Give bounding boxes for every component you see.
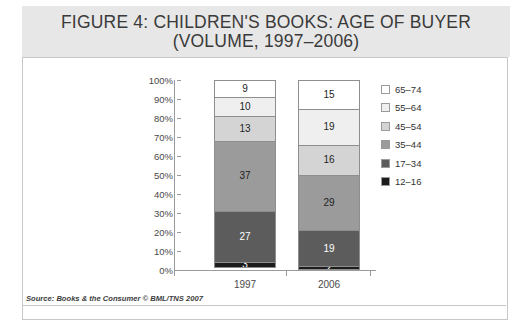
bar-segment[interactable]: 16 xyxy=(298,145,360,175)
figure-container: FIGURE 4: CHILDREN'S BOOKS: AGE OF BUYER… xyxy=(22,6,510,322)
legend-item[interactable]: 17–34 xyxy=(381,154,491,173)
legend-label: 17–34 xyxy=(395,158,421,169)
bar-segment-label: 2 xyxy=(326,266,332,270)
bar-segment-label: 13 xyxy=(239,124,250,134)
bar-segment-label: 19 xyxy=(323,122,334,132)
legend-item[interactable]: 65–74 xyxy=(381,80,491,99)
bar-segment-label: 15 xyxy=(323,90,334,100)
y-axis-tick: 20% xyxy=(121,226,181,238)
legend-swatch-icon xyxy=(381,85,390,94)
x-axis-tick-mark xyxy=(174,271,175,276)
y-axis-tick-label: 60% xyxy=(154,151,177,162)
source-note: Source: Books & the Consumer © BML/TNS 2… xyxy=(22,294,510,303)
y-axis-tick: 100% xyxy=(121,74,181,86)
y-axis-tick-label: 100% xyxy=(149,75,177,86)
figure-title-line-1: FIGURE 4: CHILDREN'S BOOKS: AGE OF BUYER xyxy=(61,13,471,32)
legend-item[interactable]: 55–64 xyxy=(381,99,491,118)
figure-title-banner: FIGURE 4: CHILDREN'S BOOKS: AGE OF BUYER… xyxy=(22,6,510,57)
bar-segment[interactable]: 9 xyxy=(214,80,276,97)
y-axis-tick-label: 20% xyxy=(154,227,177,238)
y-axis-tick: 10% xyxy=(121,245,181,257)
legend-label: 12–16 xyxy=(395,176,421,187)
x-axis-line xyxy=(174,270,376,271)
bar-segment[interactable]: 19 xyxy=(298,109,360,145)
y-axis-tick-mark xyxy=(177,156,181,157)
bar-segment-label: 19 xyxy=(323,244,334,254)
y-axis-tick-mark xyxy=(177,270,181,271)
legend-swatch-icon xyxy=(381,140,390,149)
bar-segment[interactable]: 2 xyxy=(298,266,360,270)
legend-label: 35–44 xyxy=(395,139,421,150)
y-axis-tick-mark xyxy=(177,251,181,252)
y-axis-tick: 30% xyxy=(121,207,181,219)
x-axis-tick-mark xyxy=(286,271,287,276)
x-axis-label: 1997 xyxy=(205,279,285,290)
y-axis-tick: 90% xyxy=(121,93,181,105)
bar-segment-label: 9 xyxy=(242,84,248,94)
bar-segment[interactable]: 29 xyxy=(298,175,360,230)
x-axis-label: 2006 xyxy=(289,279,369,290)
y-axis-tick: 40% xyxy=(121,188,181,200)
bar-segment-label: 27 xyxy=(239,232,250,242)
y-axis-tick: 70% xyxy=(121,131,181,143)
y-axis-tick-mark xyxy=(177,118,181,119)
y-axis-tick-label: 80% xyxy=(154,113,177,124)
y-axis-tick: 80% xyxy=(121,112,181,124)
y-axis-tick-label: 90% xyxy=(154,94,177,105)
legend-item[interactable]: 35–44 xyxy=(381,136,491,155)
y-axis-tick-mark xyxy=(177,80,181,81)
y-axis-tick-label: 70% xyxy=(154,132,177,143)
x-axis-tick-mark xyxy=(370,271,371,276)
y-axis-tick-label: 40% xyxy=(154,189,177,200)
bar-segment[interactable]: 37 xyxy=(214,141,276,211)
stacked-bar[interactable]: 9101337273 xyxy=(214,80,276,270)
legend-swatch-icon xyxy=(381,122,390,131)
chart-frame: 100%90%80%70%60%50%40%30%20%10%0% 199720… xyxy=(22,57,508,320)
y-axis-tick: 60% xyxy=(121,150,181,162)
source-note-area: Source: Books & the Consumer © BML/TNS 2… xyxy=(22,294,510,306)
bar-segment-label: 37 xyxy=(239,171,250,181)
y-axis-tick-mark xyxy=(177,175,181,176)
bar-segment[interactable]: 27 xyxy=(214,211,276,262)
y-axis-tick-mark xyxy=(177,99,181,100)
y-axis-tick-mark xyxy=(177,232,181,233)
source-divider xyxy=(22,305,506,306)
legend-swatch-icon xyxy=(381,177,390,186)
legend-label: 45–54 xyxy=(395,121,421,132)
legend-swatch-icon xyxy=(381,159,390,168)
y-axis-tick-mark xyxy=(177,213,181,214)
y-axis-tick-label: 30% xyxy=(154,208,177,219)
bar-segment-label: 29 xyxy=(323,198,334,208)
y-axis-tick-label: 10% xyxy=(154,246,177,257)
bar-segment[interactable]: 3 xyxy=(214,262,276,268)
y-axis-tick: 0% xyxy=(121,264,181,276)
figure-title-line-2: (VOLUME, 1997–2006) xyxy=(173,32,360,51)
bar-segment[interactable]: 13 xyxy=(214,116,276,141)
y-axis-tick-mark xyxy=(177,137,181,138)
y-axis-tick: 50% xyxy=(121,169,181,181)
bar-segment[interactable]: 19 xyxy=(298,230,360,266)
plot-area: 100%90%80%70%60%50%40%30%20%10%0% 199720… xyxy=(23,58,507,319)
legend-swatch-icon xyxy=(381,103,390,112)
bar-segment[interactable]: 10 xyxy=(214,97,276,116)
y-axis-tick-label: 50% xyxy=(154,170,177,181)
stacked-bar[interactable]: 15191629192 xyxy=(298,80,360,270)
legend-item[interactable]: 45–54 xyxy=(381,117,491,136)
bar-segment-label: 3 xyxy=(242,262,248,268)
chart-legend: 65–7455–6445–5435–4417–3412–16 xyxy=(381,80,491,191)
y-axis-tick-mark xyxy=(177,194,181,195)
legend-label: 55–64 xyxy=(395,102,421,113)
bar-segment-label: 10 xyxy=(239,102,250,112)
bar-segment-label: 16 xyxy=(323,155,334,165)
bar-segment[interactable]: 15 xyxy=(298,80,360,109)
legend-item[interactable]: 12–16 xyxy=(381,173,491,192)
legend-label: 65–74 xyxy=(395,84,421,95)
